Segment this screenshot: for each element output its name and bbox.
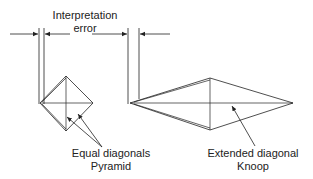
right-dimension-lines <box>92 28 170 104</box>
pyramid-indentation-shape <box>40 76 93 131</box>
left-dimension-lines <box>10 28 70 104</box>
indentation-diagram: Interpretation error Equal diagonals Pyr… <box>0 0 313 179</box>
knoop-label-line2: Knoop <box>237 160 269 172</box>
interpretation-label-line2: error <box>73 22 97 34</box>
pyramid-pointer-arrows <box>67 114 102 147</box>
pyramid-label-line1: Equal diagonals <box>72 147 151 159</box>
pyramid-label-line2: Pyramid <box>91 160 131 172</box>
knoop-pointer-arrow <box>232 106 255 146</box>
knoop-label-line1: Extended diagonal <box>207 147 298 159</box>
knoop-indentation-shape <box>130 78 293 130</box>
interpretation-label-line1: Interpretation <box>53 9 118 21</box>
